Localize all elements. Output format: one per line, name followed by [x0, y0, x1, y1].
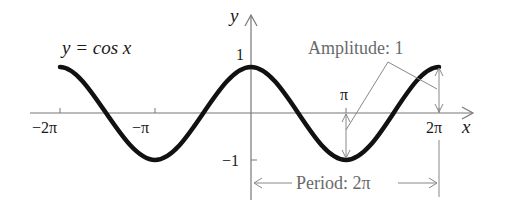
x-axis-label: x	[461, 116, 471, 137]
x-tick-2pi: 2π	[426, 119, 442, 136]
cosine-diagram: y = cos x y x 1 −1 −2π −π π 2π Amplitude…	[0, 0, 505, 213]
period-label: Period: 2π	[296, 173, 371, 193]
equation-label: y = cos x	[60, 37, 132, 58]
x-tick-minus-pi: −π	[132, 119, 149, 136]
y-tick-1: 1	[236, 46, 244, 63]
y-axis	[245, 15, 257, 200]
y-axis-label: y	[228, 5, 239, 26]
y-tick-minus-1: −1	[222, 152, 239, 169]
amplitude-arrows	[342, 62, 443, 158]
x-tick-pi: π	[340, 86, 348, 103]
amplitude-label: Amplitude: 1	[308, 38, 404, 58]
x-tick-minus-2pi: −2π	[32, 119, 57, 136]
